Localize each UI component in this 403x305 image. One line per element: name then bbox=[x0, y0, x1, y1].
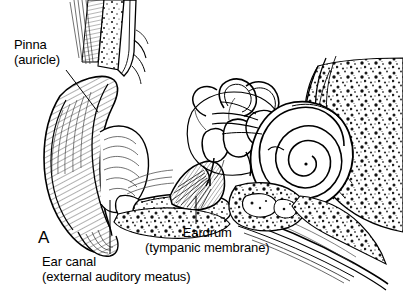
eardrum-label-line2: (tympanic membrane) bbox=[145, 241, 270, 256]
eardrum-label: Eardrum (tympanic membrane) bbox=[145, 226, 270, 255]
ear-canal-label-line2: (external auditory meatus) bbox=[42, 270, 190, 285]
ear-canal-label-line1: Ear canal bbox=[42, 255, 190, 270]
pinna-label-line1: Pinna bbox=[14, 38, 60, 53]
pinna-label-line2: (auricle) bbox=[14, 53, 60, 68]
ear-canal-label: Ear canal (external auditory meatus) bbox=[42, 255, 190, 284]
pinna-label: Pinna (auricle) bbox=[14, 38, 60, 67]
eardrum-label-line1: Eardrum bbox=[145, 226, 270, 241]
ear-anatomy-figure: Pinna (auricle) Eardrum (tympanic membra… bbox=[0, 0, 403, 305]
panel-letter: A bbox=[38, 228, 49, 248]
